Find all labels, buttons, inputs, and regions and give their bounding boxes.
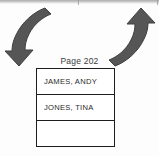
table-cell-name: JONES, TINA (44, 103, 93, 112)
name-list-table: JAMES, ANDY JONES, TINA (36, 68, 115, 147)
table-cell-name: JAMES, ANDY (44, 77, 97, 86)
page-caption: Page 202 (0, 56, 159, 66)
table-row: JONES, TINA (37, 95, 114, 121)
page-diagram: Page 202 JAMES, ANDY JONES, TINA (0, 0, 159, 156)
table-row: JAMES, ANDY (37, 69, 114, 95)
scan-edge-tick (157, 0, 158, 5)
scan-edge-tick (78, 0, 79, 5)
scan-edge-artifact (0, 0, 159, 4)
table-row (37, 121, 114, 146)
